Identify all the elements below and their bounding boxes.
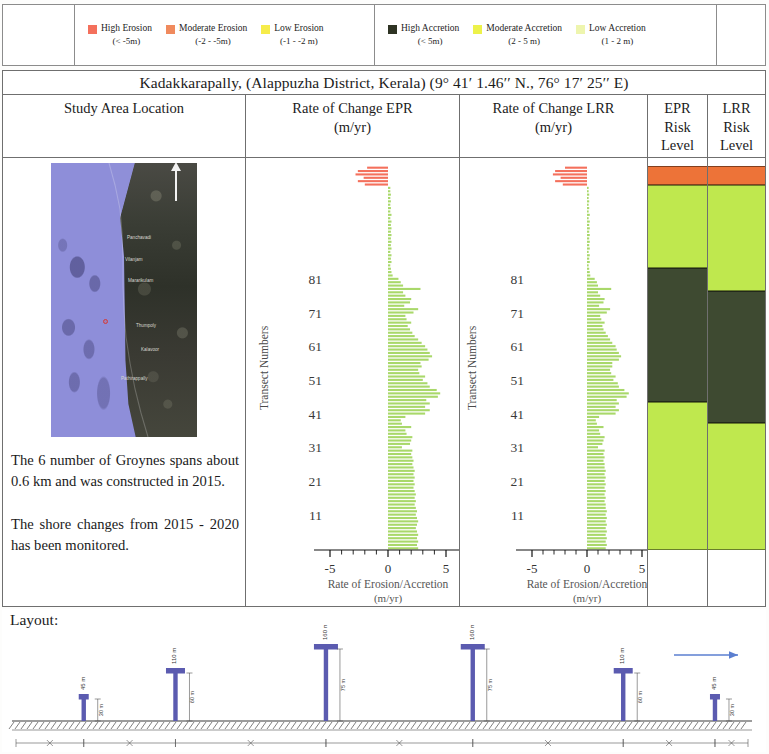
ground-hatch xyxy=(513,722,518,729)
ground-hatch xyxy=(279,722,284,729)
ground-hatch xyxy=(9,722,14,729)
column-header-lrr-risk: LRR Risk Level xyxy=(708,95,765,157)
x-tick-label: -5 xyxy=(325,561,336,576)
chart-bar xyxy=(587,342,612,344)
risk-level-band xyxy=(648,402,707,550)
legend-swatch-high-accretion xyxy=(388,25,397,34)
chart-bar xyxy=(587,221,590,223)
chart-bar xyxy=(587,527,606,529)
chart-bar xyxy=(388,345,425,347)
chart-bar xyxy=(587,204,589,206)
chart-bar xyxy=(587,402,619,404)
chart-bar xyxy=(388,433,407,435)
cell-lrr-risk-level xyxy=(708,158,765,606)
ground-hatch xyxy=(591,722,596,729)
column-header-epr-risk-l1: EPR xyxy=(664,99,691,118)
map-place-label: Vilanjam xyxy=(125,257,143,262)
ground-hatch xyxy=(333,722,338,729)
chart-bar xyxy=(388,396,438,398)
chart-bar xyxy=(388,547,418,549)
chart-bar xyxy=(587,207,589,209)
column-header-epr: Rate of Change EPR (m/yr) xyxy=(246,95,460,157)
ground-hatch xyxy=(285,722,290,729)
chart-bar xyxy=(587,291,598,293)
chart-bar xyxy=(587,241,590,243)
ground-hatch xyxy=(705,722,710,729)
column-header-epr-risk-l2: Risk xyxy=(664,118,691,137)
ground-hatch xyxy=(675,722,680,729)
chart-bar xyxy=(388,244,391,246)
chart-bar xyxy=(587,520,606,522)
chart-bar xyxy=(587,537,607,539)
ground-hatch xyxy=(63,722,68,729)
column-header-lrr-risk-l3: Level xyxy=(720,136,753,155)
chart-bar xyxy=(388,490,415,492)
chart-bar xyxy=(587,497,606,499)
ground-hatch xyxy=(57,722,62,729)
column-header-epr-line1: Rate of Change EPR xyxy=(292,99,412,118)
chart-bar xyxy=(587,507,606,509)
chart-bar xyxy=(587,524,607,526)
chart-bar xyxy=(587,359,619,361)
x-axis-label: Rate of Erosion/Accretion xyxy=(527,578,648,590)
chart-bar xyxy=(555,180,587,182)
chart-bar xyxy=(388,214,391,216)
legend-item-high-erosion: High Erosion (< -5m) xyxy=(81,22,159,49)
cell-epr-risk-level xyxy=(648,158,708,606)
chart-bar xyxy=(388,460,414,462)
chart-bar xyxy=(388,473,414,475)
chart-bar xyxy=(364,177,388,179)
ground-hatch xyxy=(501,722,506,729)
chart-bar xyxy=(388,338,418,340)
ground-hatch xyxy=(219,722,224,729)
ground-hatch xyxy=(651,722,656,729)
y-axis-label: Transect Numbers xyxy=(258,325,270,410)
chart-bar xyxy=(388,274,393,276)
figure-page: High Erosion (< -5m) Moderate Erosion (-… xyxy=(0,0,769,754)
chart-bar xyxy=(587,466,605,468)
chart-bar xyxy=(388,450,412,452)
groyne-stem xyxy=(621,673,625,721)
chart-bar xyxy=(388,372,419,374)
chart-bar xyxy=(587,345,616,347)
chart-bar xyxy=(388,335,415,337)
risk-level-band xyxy=(708,185,765,291)
map-place-label: Kalavoor xyxy=(141,347,159,352)
ground-hatch xyxy=(135,722,140,729)
legend-swatch-low-accretion xyxy=(576,25,585,34)
ground-hatch xyxy=(477,722,482,729)
chart-bar xyxy=(587,217,589,219)
groyne-length-label: 160 m xyxy=(322,625,328,640)
ground-hatch xyxy=(633,722,638,729)
chart-bar xyxy=(388,224,391,226)
ground-hatch xyxy=(363,722,368,729)
chart-bar xyxy=(388,375,425,377)
chart-bar xyxy=(587,285,598,287)
legend-range-high-accretion: (< 5m) xyxy=(418,35,443,48)
chart-bar xyxy=(388,200,391,202)
ground-hatch xyxy=(243,722,248,729)
chart-bar xyxy=(388,305,404,307)
legend-range-high-erosion: (< -5m) xyxy=(113,35,141,48)
chart-bar xyxy=(587,443,602,445)
ground-hatch xyxy=(411,722,416,729)
chart-bar xyxy=(388,268,391,270)
ground-hatch xyxy=(93,722,98,729)
chart-bar xyxy=(388,318,407,320)
chart-bar xyxy=(388,227,391,229)
chart-bar xyxy=(587,460,604,462)
ground-hatch xyxy=(375,722,380,729)
chart-bar xyxy=(587,190,589,192)
ground-hatch xyxy=(297,722,302,729)
legend-range-moderate-accretion: (2 - 5 m) xyxy=(508,35,540,48)
column-header-study-area: Study Area Location xyxy=(3,95,246,157)
y-tick-label: 51 xyxy=(309,373,323,388)
legend-swatch-moderate-accretion xyxy=(473,25,482,34)
chart-bar xyxy=(587,480,605,482)
chart-bar xyxy=(587,473,605,475)
groyne-stem xyxy=(82,699,86,721)
chart-bar xyxy=(388,480,414,482)
chart-bar xyxy=(587,372,611,374)
chart-bar xyxy=(587,274,590,276)
chart-bar xyxy=(587,231,589,233)
